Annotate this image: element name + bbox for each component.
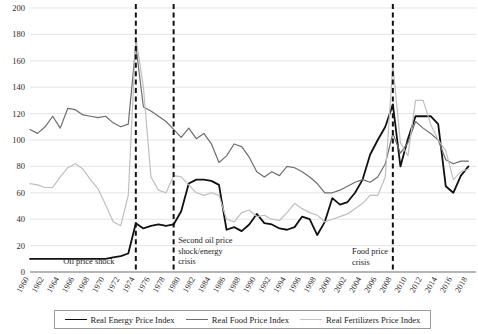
legend-label: Real Energy Price Index	[91, 315, 175, 325]
y-axis-tick-label: 40	[17, 214, 26, 224]
legend-label: Real Food Price Index	[212, 315, 289, 325]
x-axis-tick-label: 1992	[257, 276, 273, 295]
y-axis-tick-label: 200	[12, 3, 25, 13]
x-axis-tick-label: 1972	[105, 276, 121, 295]
x-axis-tick-label: 1976	[136, 276, 152, 295]
x-axis-tick-label: 2004	[347, 276, 363, 295]
x-axis-tick-label: 1974	[121, 276, 137, 295]
legend-item-1[interactable]: Real Food Price Index	[186, 315, 289, 325]
x-axis-tick-label: 1960	[15, 276, 31, 295]
x-axis-tick-label: 1990	[242, 276, 258, 295]
legend-swatch-icon	[300, 319, 322, 320]
y-axis-tick-label: 180	[12, 29, 25, 39]
annotation-second-oil-price-shock: crisis	[178, 257, 196, 266]
annotation-food-price-crisis: crisis	[352, 258, 370, 267]
legend-swatch-icon	[186, 319, 208, 320]
series-line-0	[30, 104, 468, 258]
y-axis-tick-label: 120	[12, 109, 25, 119]
x-axis-tick-label: 2016	[438, 276, 454, 295]
x-axis-tick-label: 1982	[181, 276, 197, 295]
price-index-chart: 0204060801001201401601802001960196219641…	[0, 0, 478, 334]
chart-legend: Real Energy Price IndexReal Food Price I…	[54, 310, 431, 329]
x-axis-tick-label: 1980	[166, 276, 182, 295]
y-axis-tick-label: 140	[12, 82, 25, 92]
legend-label: Real Fertilizers Price Index	[326, 315, 420, 325]
x-axis-tick-label: 1970	[90, 276, 106, 295]
x-axis-tick-label: 1986	[211, 276, 227, 295]
x-axis-tick-label: 2008	[378, 276, 394, 295]
x-axis-tick-label: 1968	[75, 276, 91, 295]
annotation-second-oil-price-shock: shock/energy	[178, 247, 223, 256]
x-axis-tick-label: 1984	[196, 276, 212, 295]
plot-area: 0204060801001201401601802001960196219641…	[0, 0, 478, 300]
x-axis-tick-label: 2002	[332, 276, 348, 295]
x-axis-tick-label: 1962	[30, 276, 46, 295]
x-axis-tick-label: 1996	[287, 276, 303, 295]
annotation-food-price-crisis: Food price	[352, 247, 388, 256]
x-axis-tick-label: 2014	[423, 276, 439, 295]
x-axis-tick-label: 1994	[272, 276, 288, 295]
x-axis-tick-label: 2000	[317, 276, 333, 295]
legend-swatch-icon	[65, 319, 87, 320]
x-axis-tick-label: 1964	[45, 276, 61, 295]
series-line-2	[30, 37, 468, 226]
y-axis-tick-label: 100	[12, 135, 25, 145]
x-axis-tick-label: 1998	[302, 276, 318, 295]
y-axis-tick-label: 160	[12, 56, 25, 66]
y-axis-tick-label: 60	[17, 188, 26, 198]
legend-item-0[interactable]: Real Energy Price Index	[65, 315, 175, 325]
legend-item-2[interactable]: Real Fertilizers Price Index	[300, 315, 420, 325]
series-line-1	[30, 45, 468, 193]
y-axis-tick-label: 20	[17, 241, 26, 251]
x-axis-tick-label: 1978	[151, 276, 167, 295]
y-axis-tick-label: 80	[17, 161, 26, 171]
annotation-oil-price-shock: Oil price shock	[63, 257, 115, 266]
annotation-second-oil-price-shock: Second oil price	[178, 236, 233, 245]
x-axis-tick-label: 2018	[453, 276, 469, 295]
x-axis-tick-label: 1966	[60, 276, 76, 295]
chart-svg: 0204060801001201401601802001960196219641…	[0, 0, 478, 300]
x-axis-tick-label: 2006	[362, 276, 378, 295]
x-axis-tick-label: 1988	[226, 276, 242, 295]
x-axis-tick-label: 2012	[408, 276, 424, 295]
x-axis-tick-label: 2010	[393, 276, 409, 295]
